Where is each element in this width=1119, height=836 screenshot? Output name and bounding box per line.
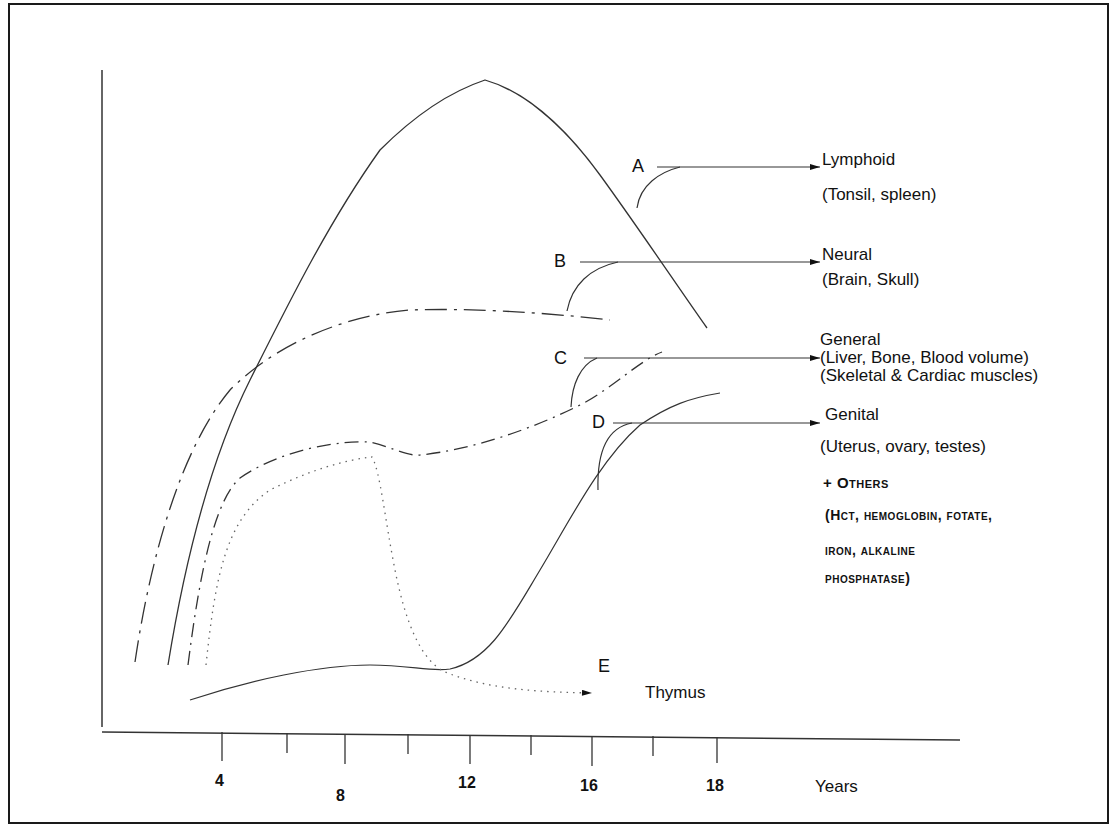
label-neural-title: Neural: [822, 245, 872, 265]
label-general-sub1: (Liver, Bone, Blood volume): [820, 348, 1029, 368]
x-tick-label-18: 18: [706, 777, 724, 795]
x-tick-label-8: 8: [336, 787, 345, 805]
label-genital-title: Genital: [825, 405, 879, 425]
label-general-sub2: (Skeletal & Cardiac muscles): [820, 366, 1038, 386]
label-letter-b: B: [554, 251, 566, 272]
curve-d-genital: [190, 393, 720, 700]
growth-curves-plot: [0, 0, 1119, 836]
x-tick-label-4: 4: [215, 772, 224, 790]
label-others-heading: + Others: [823, 473, 889, 493]
x-axis-title: Years: [815, 777, 858, 797]
label-letter-c: C: [554, 348, 567, 369]
curve-c-general: [188, 352, 662, 665]
label-others-line3: phosphatase): [825, 568, 910, 588]
curve-e-thymus: [206, 457, 592, 693]
label-general-title: General: [820, 330, 880, 350]
label-lymphoid-sub: (Tonsil, spleen): [822, 185, 936, 205]
x-tick-label-16: 16: [580, 777, 598, 795]
label-neural-sub: (Brain, Skull): [822, 270, 919, 290]
label-others-line2: iron, alkaline: [825, 540, 915, 560]
label-letter-a: A: [632, 156, 644, 177]
label-lymphoid-title: Lymphoid: [822, 150, 895, 170]
curve-b-neural: [135, 309, 610, 662]
label-others-line1: (Hct, hemoglobin, fotate,: [825, 505, 992, 525]
x-tick-label-12: 12: [458, 774, 476, 792]
leader-lines: [567, 167, 820, 490]
label-thymus: Thymus: [645, 683, 705, 703]
label-letter-e: E: [598, 656, 610, 677]
label-letter-d: D: [592, 412, 605, 433]
label-genital-sub: (Uterus, ovary, testes): [820, 437, 986, 457]
